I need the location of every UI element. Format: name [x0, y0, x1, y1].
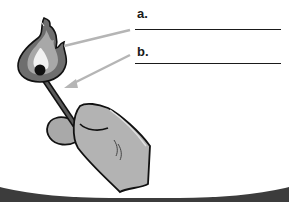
answer-line-b[interactable]	[135, 63, 281, 64]
label-a: a.	[137, 7, 148, 20]
finger-illustration	[74, 104, 150, 192]
pointer-arrow-b	[64, 55, 130, 88]
label-b: b.	[137, 45, 149, 58]
flame-icon	[18, 18, 66, 82]
match-illustration	[0, 0, 289, 202]
answer-line-a[interactable]	[135, 29, 281, 30]
pointer-arrow-a	[64, 30, 130, 46]
